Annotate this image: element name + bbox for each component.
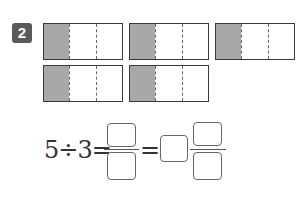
fraction-bar-2 [129,23,209,60]
fraction-bar-4 [43,65,123,102]
empty-part [182,24,208,59]
mixed-numerator-answer-box[interactable] [193,122,222,146]
empty-part [241,24,267,59]
empty-part [155,66,181,101]
denominator-answer-box[interactable] [107,152,136,180]
shaded-part [44,24,69,59]
equation-expression: 5÷3= [44,136,111,164]
empty-part [182,66,208,101]
empty-part [96,66,122,101]
whole-number-answer-box[interactable] [160,135,188,162]
shaded-part [130,66,155,101]
problem-number-badge: 2 [12,23,32,43]
fraction-bar-1 [43,23,123,60]
shaded-part [130,24,155,59]
fraction-line [104,149,139,150]
fraction-bar-5 [129,65,209,102]
shaded-part [216,24,241,59]
mixed-denominator-answer-box[interactable] [193,152,222,180]
shaded-part [44,66,69,101]
empty-part [155,24,181,59]
fraction-line [190,149,226,150]
fraction-bar-3 [215,23,295,60]
equals-sign: = [140,136,160,164]
empty-part [69,24,95,59]
numerator-answer-box[interactable] [107,123,136,147]
empty-part [268,24,294,59]
empty-part [96,24,122,59]
empty-part [69,66,95,101]
